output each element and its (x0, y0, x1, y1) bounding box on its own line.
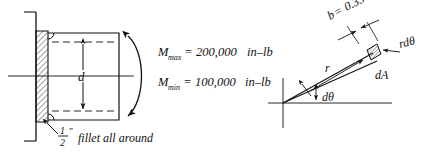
moment-max-equals: = (185, 45, 192, 59)
b-value: 0.354 (342, 0, 372, 14)
area-label: dA (375, 68, 389, 82)
fillet-fraction-denominator: 2 (60, 137, 65, 148)
fillet-arc-bottom (48, 114, 54, 120)
radius-label: r (325, 61, 330, 75)
fillet-note-text: fillet all around (78, 131, 154, 145)
fillet-leader-line (47, 123, 58, 134)
arc-length-arrow (383, 50, 400, 52)
arc-length-label: rdθ (397, 33, 416, 51)
moment-min-units: in–lb (245, 75, 271, 89)
diameter-label: d (78, 69, 85, 84)
fillet-fraction-numerator: 1 (60, 125, 65, 136)
right-diagram-group: r b = 0.354 rdθ dA dθ (268, 0, 416, 128)
radius-arrow (310, 60, 363, 91)
moment-max-label: M max = 200,000 in–lb (157, 45, 273, 62)
fillet-inch-mark: ” (69, 126, 73, 136)
angle-label: dθ (322, 90, 334, 104)
b-dimension-label: b = 0.354 (325, 0, 372, 23)
moment-max-value: 200,000 (196, 45, 237, 59)
fillet-arc-top (48, 33, 54, 39)
engineering-figure: d M max = 200,000 in–lb M min = 100,000 … (0, 0, 431, 152)
moment-min-label: M min = 100,000 in–lb (157, 75, 271, 92)
moment-max-units: in–lb (247, 45, 273, 59)
fillet-note: 1 2 ” fillet all around (58, 125, 154, 148)
moment-min-subscript: min (168, 83, 180, 92)
moment-min-value: 100,000 (195, 75, 236, 89)
moment-max-subscript: max (168, 53, 182, 62)
differential-area-element (367, 44, 381, 60)
left-diagram-group: d M max = 200,000 in–lb M min = 100,000 … (8, 12, 273, 148)
flange-hatched-section (36, 31, 48, 122)
arc-length-text: rdθ (397, 33, 416, 51)
moment-min-equals: = (184, 75, 191, 89)
figure-canvas: d M max = 200,000 in–lb M min = 100,000 … (0, 0, 431, 152)
